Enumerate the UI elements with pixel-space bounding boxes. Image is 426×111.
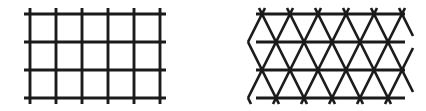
square-lattice-figure	[24, 8, 166, 104]
triangular-lattice-diagonal-down-left-7	[301, 8, 349, 104]
triangular-lattice-diagonal-down-right-7	[343, 8, 391, 104]
triangular-lattice-diagonal-down-right-6	[315, 8, 363, 104]
figure-canvas	[0, 0, 426, 111]
triangular-lattice-diagonal-down-right-4	[259, 8, 307, 104]
lattice-svg	[0, 0, 426, 111]
triangular-lattice-figure	[248, 8, 413, 104]
triangular-lattice-diagonal-down-right-3	[248, 42, 279, 104]
triangular-lattice-diagonal-down-left-6	[273, 8, 321, 104]
triangular-lattice-diagonal-down-right-9	[399, 8, 413, 36]
triangular-lattice-diagonal-down-right-2	[248, 98, 251, 104]
triangular-lattice-diagonal-down-right-5	[287, 8, 335, 104]
triangular-lattice-diagonal-down-left-8	[329, 8, 377, 104]
triangular-lattice-diagonal-down-left-10	[385, 48, 413, 104]
triangular-lattice-diagonal-down-left-9	[357, 8, 405, 104]
